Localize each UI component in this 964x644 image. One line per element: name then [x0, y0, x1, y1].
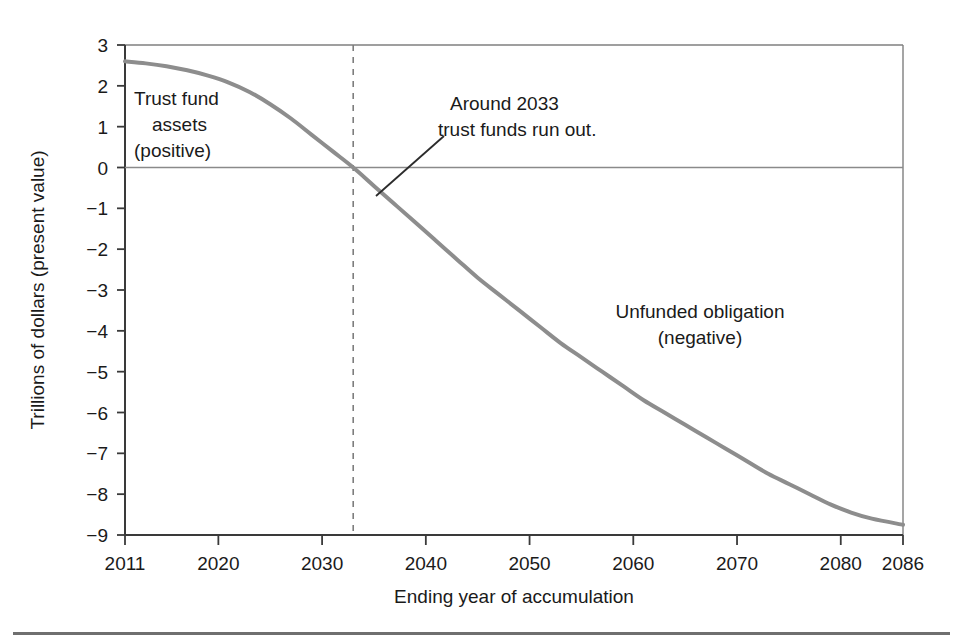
trust-fund-balance-chart: 3 2 1 0 −1 −2 −3 −4 −5 −6 −7 −8 −9	[0, 0, 964, 644]
x-label-2040: 2040	[405, 553, 447, 574]
unfunded-obligation-label: Unfunded obligation (negative)	[615, 301, 784, 348]
x-label-2030: 2030	[301, 553, 343, 574]
x-label-2080: 2080	[820, 553, 862, 574]
x-label-2086: 2086	[882, 553, 924, 574]
y-label-2: 2	[97, 76, 108, 97]
footer-divider	[13, 632, 950, 635]
y-label-minus-6: −6	[86, 403, 108, 424]
y-label-minus-1: −1	[86, 198, 108, 219]
figure-container: 3 2 1 0 −1 −2 −3 −4 −5 −6 −7 −8 −9	[0, 0, 964, 644]
y-axis-tick-labels: 3 2 1 0 −1 −2 −3 −4 −5 −6 −7 −8 −9	[86, 35, 108, 546]
x-axis-ticks	[125, 535, 903, 545]
x-label-2011: 2011	[105, 553, 146, 574]
x-label-2020: 2020	[197, 553, 239, 574]
x-axis-tick-labels: 2011 2020 2030 2040 2050 2060 2070 2080 …	[105, 553, 925, 574]
x-label-2070: 2070	[716, 553, 758, 574]
x-label-2050: 2050	[508, 553, 550, 574]
trust-fund-assets-label: Trust fund assets (positive)	[134, 88, 219, 161]
y-label-minus-3: −3	[86, 280, 108, 301]
unfunded-obligation-line1: Unfunded obligation	[615, 301, 784, 322]
x-label-2060: 2060	[612, 553, 654, 574]
unfunded-obligation-line2: (negative)	[658, 327, 743, 348]
y-label-minus-5: −5	[86, 362, 108, 383]
callout-line1: Around 2033	[450, 93, 559, 114]
trust-fund-assets-line1: Trust fund	[134, 88, 219, 109]
trust-fund-assets-line2: assets	[152, 114, 207, 135]
y-label-3: 3	[97, 35, 108, 56]
trust-fund-assets-line3: (positive)	[134, 140, 211, 161]
y-label-minus-7: −7	[86, 443, 108, 464]
y-label-minus-2: −2	[86, 239, 108, 260]
y-label-minus-9: −9	[86, 525, 108, 546]
y-axis-ticks	[117, 45, 125, 535]
x-axis-title: Ending year of accumulation	[394, 586, 634, 607]
y-axis-title: Trillions of dollars (present value)	[27, 150, 48, 429]
y-label-0: 0	[97, 158, 108, 179]
y-label-minus-4: −4	[86, 321, 108, 342]
callout-leader-line	[376, 136, 444, 196]
y-label-minus-8: −8	[86, 484, 108, 505]
callout-line2: trust funds run out.	[438, 119, 596, 140]
depletion-callout-label: Around 2033 trust funds run out.	[438, 93, 596, 140]
y-label-1: 1	[97, 117, 108, 138]
